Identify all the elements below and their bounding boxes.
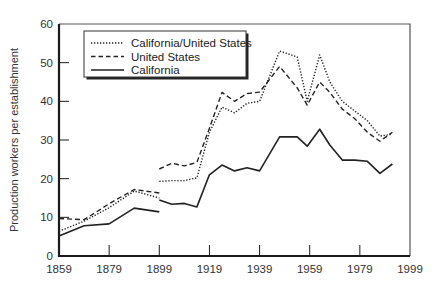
y-tick-label: 10	[40, 211, 53, 223]
line-chart: 0102030405060 18591879189919191939195919…	[0, 0, 442, 295]
y-tick-label: 60	[40, 18, 53, 30]
series-line-california-united-states	[59, 191, 159, 231]
x-tick-label: 1899	[146, 263, 172, 275]
x-tick-label: 1939	[247, 263, 273, 275]
x-tick-label: 1879	[96, 263, 122, 275]
series-line-california	[59, 208, 159, 236]
y-tick-label: 0	[47, 250, 53, 262]
legend-label: United States	[131, 51, 200, 63]
y-tick-label: 20	[40, 173, 53, 185]
series-line-united-states	[159, 67, 392, 170]
y-tick-label: 40	[40, 95, 53, 107]
x-tick-label: 1859	[46, 263, 72, 275]
x-tick-label: 1919	[197, 263, 223, 275]
y-axis-title: Production workers per establishment	[8, 48, 20, 232]
legend-label: California	[131, 64, 180, 76]
x-tick-label: 1979	[347, 263, 373, 275]
x-tick-label: 1999	[397, 263, 423, 275]
series-line-california	[159, 129, 392, 207]
y-axis: 0102030405060	[40, 18, 69, 262]
x-axis: 18591879189919191939195919791999	[46, 245, 423, 275]
x-tick-label: 1959	[297, 263, 323, 275]
y-tick-label: 30	[40, 134, 53, 146]
legend-label: California/United States	[131, 37, 252, 49]
y-tick-label: 50	[40, 57, 53, 69]
legend: California/United StatesUnited StatesCal…	[84, 31, 252, 80]
